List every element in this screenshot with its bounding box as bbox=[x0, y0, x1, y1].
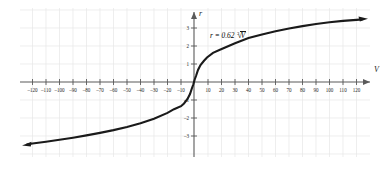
x-tick-label: 30 bbox=[232, 87, 238, 93]
y-tick-label: –2 bbox=[183, 115, 190, 121]
x-axis-label: V bbox=[374, 65, 380, 74]
x-tick-label: 110 bbox=[339, 87, 347, 93]
x-tick-label: –100 bbox=[53, 87, 65, 93]
radicand: V bbox=[240, 31, 246, 39]
chart-canvas: –120 –110 –100 –90 –80 –70 –60 –50 –40 –… bbox=[0, 0, 390, 169]
x-tick-label: 20 bbox=[219, 87, 225, 93]
x-tick-label: 120 bbox=[353, 87, 361, 93]
x-tick-label: 40 bbox=[246, 87, 252, 93]
equation-annotation: r = 0.623√V bbox=[210, 25, 246, 41]
equation-text: r = 0.62 bbox=[210, 31, 235, 40]
x-tick-label: –90 bbox=[68, 87, 77, 93]
x-tick-label: 100 bbox=[326, 87, 334, 93]
x-tick-label: –50 bbox=[122, 87, 131, 93]
cube-root-graph-figure: –120 –110 –100 –90 –80 –70 –60 –50 –40 –… bbox=[0, 0, 390, 169]
x-tick-label: –30 bbox=[149, 87, 158, 93]
cube-root-radical: 3√V bbox=[235, 25, 247, 41]
x-tick-label: –20 bbox=[163, 87, 172, 93]
x-tick-label: –40 bbox=[136, 87, 145, 93]
y-tick-label: –3 bbox=[183, 133, 190, 139]
x-tick-label: 60 bbox=[273, 87, 279, 93]
x-tick-label: –10 bbox=[176, 87, 185, 93]
y-axis-label: r bbox=[199, 9, 203, 18]
x-tick-label: –60 bbox=[109, 87, 118, 93]
x-tick-label: –110 bbox=[40, 87, 51, 93]
x-tick-label: –70 bbox=[95, 87, 104, 93]
x-tick-label: 10 bbox=[205, 87, 211, 93]
x-tick-label: –120 bbox=[26, 87, 38, 93]
x-tick-label: 90 bbox=[313, 87, 319, 93]
x-tick-label: 80 bbox=[300, 87, 306, 93]
x-tick-label: 50 bbox=[259, 87, 265, 93]
x-tick-label: 70 bbox=[286, 87, 292, 93]
x-tick-label: –80 bbox=[82, 87, 91, 93]
